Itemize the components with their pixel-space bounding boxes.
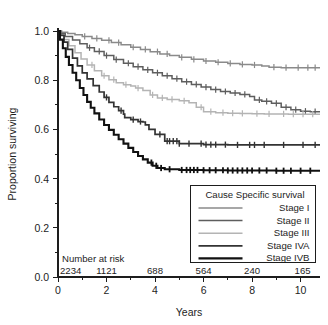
x-axis-tick-label: 8 [249, 284, 255, 296]
legend-entry-label: Stage I [279, 202, 309, 213]
km-step-line [58, 31, 320, 114]
km-step-line [58, 31, 320, 145]
number-at-risk-count: 240 [244, 265, 260, 276]
legend-box: Cause Specific survivalStage IStage IISt… [191, 186, 316, 264]
legend-title: Cause Specific survival [205, 189, 304, 200]
y-axis-tick-label: 1.0 [34, 25, 49, 37]
x-axis-tick-label: 10 [295, 284, 307, 296]
legend-entry-label: Stage III [274, 227, 310, 238]
number-at-risk-count: 2234 [60, 265, 82, 276]
km-survival-figure: 0.00.20.40.60.81.00246810YearsProportion… [0, 0, 328, 325]
number-at-risk-label: Number at risk [62, 253, 125, 264]
y-axis-tick-label: 0.0 [34, 271, 49, 283]
y-axis-tick-label: 0.6 [34, 123, 49, 135]
number-at-risk-count: 688 [147, 265, 163, 276]
number-at-risk-count: 564 [196, 265, 213, 276]
survival-curve-stage-iva [58, 31, 320, 148]
x-axis-tick-label: 6 [201, 284, 207, 296]
legend-entry-label: Stage II [276, 215, 309, 226]
y-axis-tick-label: 0.2 [34, 222, 49, 234]
x-axis-tick-label: 0 [55, 284, 61, 296]
y-axis-tick-label: 0.4 [34, 173, 49, 185]
y-axis-tick-label: 0.8 [34, 74, 49, 86]
survival-curves-layer [58, 31, 320, 174]
x-axis-title: Years [176, 306, 202, 318]
x-axis-tick-label: 2 [104, 284, 110, 296]
number-at-risk-count: 1121 [96, 265, 117, 276]
kaplan-meier-plot: 0.00.20.40.60.81.00246810YearsProportion… [0, 0, 328, 325]
x-axis-tick-label: 4 [152, 284, 158, 296]
legend-entry-label: Stage IVB [266, 252, 309, 263]
number-at-risk-count: 165 [295, 265, 311, 276]
legend-entry-label: Stage IVA [267, 240, 310, 251]
y-axis-title: Proportion surviving [6, 107, 18, 200]
